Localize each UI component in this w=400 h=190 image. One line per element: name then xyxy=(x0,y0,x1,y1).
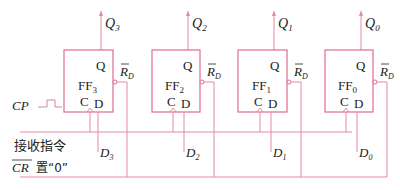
c-pin: C xyxy=(340,94,349,109)
d-pin: D xyxy=(354,96,363,111)
c-pin: C xyxy=(254,94,263,109)
output-q1: Q1 xyxy=(278,16,293,33)
q-pin: Q xyxy=(270,58,280,73)
q-pin: Q xyxy=(356,58,366,73)
input-d1: D1 xyxy=(272,145,286,162)
input-d0: D0 xyxy=(358,145,372,162)
output-q0: Q0 xyxy=(365,16,380,33)
reset-label: RD xyxy=(379,64,394,81)
c-pin: C xyxy=(80,94,89,109)
cr-label: CR xyxy=(12,160,29,175)
q-pin: Q xyxy=(96,58,106,73)
reset-zero-label: 置“0” xyxy=(36,161,68,175)
d-pin: D xyxy=(268,96,277,111)
reset-label: RD xyxy=(119,64,134,81)
c-pin: C xyxy=(167,94,176,109)
output-q2: Q2 xyxy=(192,16,207,33)
output-q3: Q3 xyxy=(105,16,120,33)
d-pin: D xyxy=(181,96,190,111)
cp-label: CP xyxy=(12,98,29,113)
reset-label: RD xyxy=(206,64,221,81)
q-pin: Q xyxy=(183,58,193,73)
input-d2: D2 xyxy=(185,145,199,162)
reset-label: RD xyxy=(293,64,308,81)
d-pin: D xyxy=(94,96,103,111)
clock-pulse-icon xyxy=(38,100,62,107)
receive-command-label: 接收指令 xyxy=(14,138,66,153)
register-diagram: Q3 Q FF3 C D RD D3 Q2 Q FF2 C D RD D2 Q1… xyxy=(0,0,400,190)
input-d3: D3 xyxy=(99,145,113,162)
